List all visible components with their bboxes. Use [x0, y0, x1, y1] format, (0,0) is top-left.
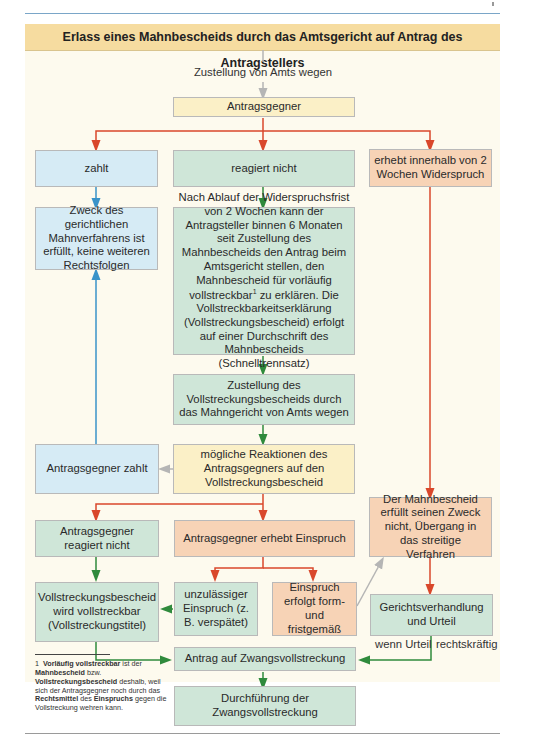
node-unzulaessig: unzulässiger Einspruch (z. B. verspätet) [174, 582, 258, 636]
bottom-rule [25, 733, 500, 734]
node-nach-ablauf: Nach Ablauf der Widerspruchsfrist von 2 … [173, 207, 355, 355]
node-antrag-zwang: Antrag auf Zwangsvollstreckung [174, 647, 356, 671]
node-widerspruch: erhebt innerhalb von 2 Wochen Widerspruc… [369, 149, 492, 187]
node-zweck-nicht-erfuellt: Der Mahnbescheid erfüllt seinen Zweck ni… [369, 497, 492, 557]
footnote: 1 Vorläufig vollstreckbar ist der Mahnbe… [35, 660, 175, 713]
node-einspruch-form: Einspruch erfolgt form- und fristgemäß [272, 582, 357, 636]
node-ag-reagiert-nicht: Antragsgegner reagiert nicht [35, 520, 159, 557]
node-gerichtsverhandlung: Gerichtsverhandlung und Urteil [370, 594, 493, 636]
fn-bold-4: Rechtsmittel [35, 694, 78, 703]
node-zahlt: zahlt [35, 150, 158, 187]
footnote-rule [35, 654, 110, 655]
fn-text-4: des [78, 694, 94, 703]
fn-bold-3: Vollstreckungsbescheid [35, 677, 117, 686]
node-durchfuehrung: Durchführung der Zwangsvollstreckung [174, 686, 356, 726]
node-moegliche-reaktionen: mögliche Reaktionen des Antragsgegners a… [173, 444, 355, 494]
wenn-urteil-label: wenn Urteil [375, 638, 432, 650]
footnote-number: 1 [35, 659, 39, 668]
fn-bold-1: Vorläufig vollstreckbar [43, 659, 120, 668]
node-vb-vollstreckbar: Vollstreckungsbescheid wird vollstreckba… [35, 582, 159, 642]
fn-text-1: ist der [120, 659, 142, 668]
nach-ablauf-rest: zu erklären. Die Vollstreckbarkeitserklä… [184, 288, 344, 369]
node-antragsgegner-zahlt: Antragsgegner zahlt [35, 444, 159, 494]
node-zweck-erfuellt: Zweck des gerichtlichen Mahnverfahrens i… [35, 207, 158, 270]
rechtskraeftig-label: rechtskräftig [436, 638, 498, 650]
zustellung-label: Zustellung von Amts wegen [180, 66, 346, 78]
fn-bold-2: Mahnbescheid [35, 668, 85, 677]
node-antragsgegner: Antragsgegner [173, 97, 355, 117]
fn-bold-5: Einspruchs [94, 694, 133, 703]
node-reagiert-nicht: reagiert nicht [173, 150, 355, 187]
fn-text-2: bzw. [85, 668, 101, 677]
nach-ablauf-text: Nach Ablauf der Widerspruchsfrist von 2 … [179, 191, 350, 300]
node-ag-erhebt-einspruch: Antragsgegner erhebt Einspruch [174, 520, 355, 557]
node-zustellung-vb: Zustellung des Vollstreckungsbescheids d… [173, 374, 355, 425]
